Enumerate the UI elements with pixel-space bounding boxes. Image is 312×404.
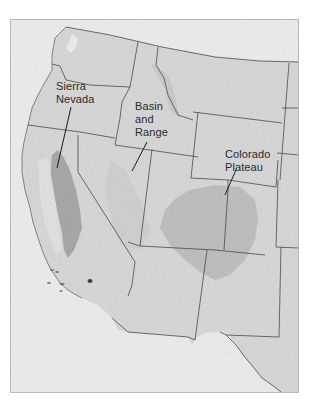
label-basin-and-range: Basin and Range	[135, 100, 168, 139]
relief-map	[0, 0, 312, 404]
label-line: Colorado	[225, 148, 270, 161]
label-line: Nevada	[56, 93, 95, 106]
label-line: Basin	[135, 100, 168, 113]
label-line: Sierra	[56, 80, 95, 93]
label-line: and	[135, 113, 168, 126]
label-sierra-nevada: Sierra Nevada	[56, 80, 95, 106]
label-line: Range	[135, 126, 168, 139]
label-colorado-plateau: Colorado Plateau	[225, 148, 270, 174]
label-line: Plateau	[225, 161, 270, 174]
